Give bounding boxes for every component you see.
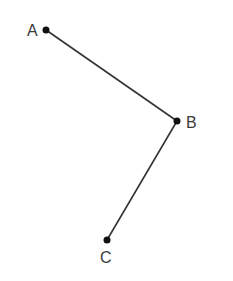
segment-bc: [107, 121, 177, 240]
point-b: [174, 118, 181, 125]
label-b: B: [186, 114, 197, 131]
diagram-canvas: A B C: [0, 0, 233, 281]
point-c: [104, 237, 111, 244]
label-a: A: [27, 22, 38, 39]
segment-ab: [46, 30, 177, 121]
point-a: [43, 27, 50, 34]
label-c: C: [100, 249, 112, 266]
